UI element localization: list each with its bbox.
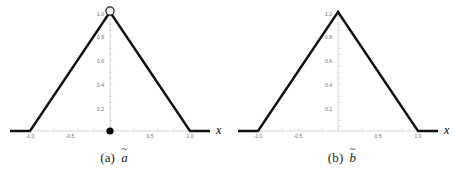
y-tick-label-04: 0.4 bbox=[97, 82, 104, 88]
y-axis-b bbox=[338, 10, 341, 131]
y-tick-label-06: 0.6 bbox=[97, 58, 104, 64]
plot-area-a: 0.8 0.6 0.4 0.2 1.0 -1.0 -0.5 0.5 1.0 x bbox=[0, 0, 228, 150]
x-tick-label-pos05: 0.5 bbox=[147, 133, 154, 139]
panel-caption-a: (a) ~ a bbox=[0, 150, 228, 183]
x-tick-label-neg05-b: -0.5 bbox=[294, 133, 303, 139]
y-tick-label-04-b: 0.4 bbox=[325, 82, 332, 88]
y-axis-a bbox=[110, 10, 113, 131]
open-circle-marker-a bbox=[106, 7, 114, 15]
x-tick-label-neg10: -1.0 bbox=[26, 133, 35, 139]
y-tick-label-02: 0.2 bbox=[97, 106, 104, 112]
caption-symbol-a: ~ a bbox=[121, 150, 128, 166]
x-axis-name-a: x bbox=[215, 123, 222, 137]
x-axis-a bbox=[10, 128, 218, 131]
y-tick-label-peak: 1.0 bbox=[97, 11, 104, 17]
x-tick-label-pos05-b: 0.5 bbox=[375, 133, 382, 139]
panel-caption-b: (b) ~ b bbox=[228, 150, 456, 183]
y-tick-label-06-b: 0.6 bbox=[325, 58, 332, 64]
y-tick-label-02-b: 0.2 bbox=[325, 106, 332, 112]
y-tick-label-08-b: 0.8 bbox=[325, 34, 332, 40]
x-axis-name-b: x bbox=[443, 123, 450, 137]
caption-tag-b: (b) bbox=[328, 150, 344, 166]
caption-symbol-b: ~ b bbox=[350, 150, 357, 166]
figure-row: 0.8 0.6 0.4 0.2 1.0 -1.0 -0.5 0.5 1.0 x bbox=[0, 0, 456, 183]
filled-dot-marker-a bbox=[106, 127, 113, 134]
figure-panel-b: 0.8 0.6 0.4 0.2 1.0 -1.0 -0.5 0.5 1.0 x … bbox=[228, 0, 456, 183]
caption-tag-a: (a) bbox=[100, 150, 115, 166]
x-tick-label-pos10-b: 1.0 bbox=[415, 133, 422, 139]
y-tick-label-peak-b: 1.0 bbox=[325, 11, 332, 17]
figure-panel-a: 0.8 0.6 0.4 0.2 1.0 -1.0 -0.5 0.5 1.0 x bbox=[0, 0, 228, 183]
x-tick-label-pos10: 1.0 bbox=[187, 133, 194, 139]
tilde-accent-b: ~ bbox=[350, 143, 356, 154]
plot-area-b: 0.8 0.6 0.4 0.2 1.0 -1.0 -0.5 0.5 1.0 x bbox=[228, 0, 456, 150]
y-tick-label-08: 0.8 bbox=[97, 34, 104, 40]
tilde-accent-a: ~ bbox=[121, 143, 127, 154]
x-tick-label-neg10-b: -1.0 bbox=[254, 133, 263, 139]
x-tick-label-neg05: -0.5 bbox=[66, 133, 75, 139]
x-axis-b bbox=[238, 128, 446, 131]
